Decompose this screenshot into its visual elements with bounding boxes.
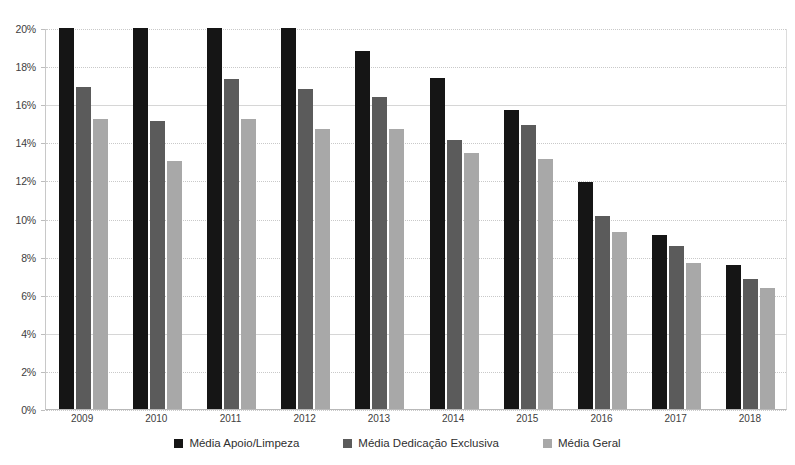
bar-group-2018 [726, 29, 775, 409]
x-tick-label-2010: 2010 [145, 413, 167, 424]
bars-layer [46, 29, 786, 409]
x-tick-label-2016: 2016 [590, 413, 612, 424]
bar-2014-series0 [430, 78, 445, 409]
legend-item-0[interactable]: Média Apoio/Limpeza [174, 437, 299, 449]
x-tick-label-2011: 2011 [220, 413, 242, 424]
x-tick-label-2009: 2009 [71, 413, 93, 424]
bar-chart: 0%2%4%6%8%10%12%14%16%18%20% 20092010201… [0, 0, 795, 465]
bar-2015-series2 [538, 159, 553, 409]
bar-2011-series0 [207, 28, 222, 409]
chart-legend: Média Apoio/LimpezaMédia Dedicação Exclu… [0, 437, 795, 449]
y-tick-mark [41, 67, 45, 68]
bar-2013-series0 [355, 51, 370, 409]
bar-2016-series1 [595, 216, 610, 409]
bar-2014-series2 [464, 153, 479, 409]
legend-label: Média Apoio/Limpeza [189, 437, 299, 449]
legend-swatch-icon [174, 439, 183, 448]
x-tick-label-2013: 2013 [368, 413, 390, 424]
x-tick-label-2015: 2015 [516, 413, 538, 424]
x-tick-label-2014: 2014 [442, 413, 464, 424]
y-tick-mark [41, 105, 45, 106]
bar-2015-series0 [504, 110, 519, 409]
bar-2018-series2 [760, 288, 775, 409]
y-axis: 0%2%4%6%8%10%12%14%16%18%20% [0, 0, 45, 465]
y-tick-mark [41, 29, 45, 30]
plot-area [45, 29, 787, 410]
bar-2011-series2 [241, 119, 256, 410]
gridline [46, 410, 786, 411]
legend-label: Média Geral [558, 437, 621, 449]
x-tick-label-2017: 2017 [665, 413, 687, 424]
bar-2009-series1 [76, 87, 91, 409]
bar-group-2016 [578, 29, 627, 409]
y-tick-mark [41, 296, 45, 297]
bar-2009-series2 [93, 119, 108, 410]
bar-2010-series0 [133, 28, 148, 409]
bar-2012-series2 [315, 129, 330, 409]
y-tick-label: 8% [21, 252, 36, 264]
bar-group-2009 [59, 29, 108, 409]
bar-group-2017 [652, 29, 701, 409]
legend-item-1[interactable]: Média Dedicação Exclusiva [343, 437, 499, 449]
y-tick-label: 12% [16, 175, 36, 187]
y-tick-label: 10% [16, 214, 36, 226]
bar-2010-series1 [150, 121, 165, 409]
y-tick-label: 4% [21, 328, 36, 340]
y-tick-label: 6% [21, 290, 36, 302]
y-tick-mark [41, 334, 45, 335]
bar-group-2015 [504, 29, 553, 409]
bar-group-2013 [355, 29, 404, 409]
legend-swatch-icon [543, 439, 552, 448]
bar-2017-series2 [686, 263, 701, 409]
legend-swatch-icon [343, 439, 352, 448]
bar-group-2010 [133, 29, 182, 409]
bar-2009-series0 [59, 28, 74, 409]
bar-2018-series1 [743, 279, 758, 409]
bar-2017-series1 [669, 246, 684, 409]
y-tick-mark [41, 181, 45, 182]
bar-2014-series1 [447, 140, 462, 409]
bar-2010-series2 [167, 161, 182, 409]
x-axis: 2009201020112012201320142015201620172018 [45, 413, 787, 433]
y-tick-label: 20% [16, 23, 36, 35]
legend-label: Média Dedicação Exclusiva [358, 437, 499, 449]
y-tick-mark [41, 220, 45, 221]
legend-item-2[interactable]: Média Geral [543, 437, 621, 449]
bar-2017-series0 [652, 235, 667, 409]
bar-2018-series0 [726, 265, 741, 409]
bar-2016-series0 [578, 182, 593, 409]
bar-2013-series1 [372, 97, 387, 409]
x-tick-label-2018: 2018 [739, 413, 761, 424]
y-tick-label: 14% [16, 137, 36, 149]
bar-group-2014 [430, 29, 479, 409]
y-tick-mark [41, 410, 45, 411]
bar-group-2012 [281, 29, 330, 409]
y-tick-label: 18% [16, 61, 36, 73]
bar-group-2011 [207, 29, 256, 409]
bar-2015-series1 [521, 125, 536, 409]
y-tick-mark [41, 143, 45, 144]
y-tick-mark [41, 372, 45, 373]
y-tick-label: 0% [21, 404, 36, 416]
bar-2013-series2 [389, 129, 404, 409]
bar-2012-series1 [298, 89, 313, 409]
x-tick-label-2012: 2012 [294, 413, 316, 424]
y-tick-label: 2% [21, 366, 36, 378]
bar-2012-series0 [281, 28, 296, 409]
y-tick-label: 16% [16, 99, 36, 111]
bar-2011-series1 [224, 79, 239, 409]
y-tick-mark [41, 258, 45, 259]
bar-2016-series2 [612, 232, 627, 409]
